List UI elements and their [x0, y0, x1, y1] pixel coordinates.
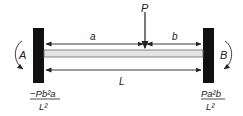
beam-diagram: P a b L A B −Pb²a L² Pa²b L² — [0, 0, 243, 116]
right-fixed-support — [203, 28, 214, 83]
left-moment-numerator: −Pb²a — [30, 88, 56, 99]
left-moment-denominator: L² — [39, 101, 48, 112]
right-moment-numerator: Pa²b — [201, 88, 221, 99]
beam — [44, 50, 203, 57]
left-fixed-support — [33, 28, 44, 83]
moment-right-label: B — [220, 49, 227, 61]
right-moment-denominator: L² — [206, 101, 215, 112]
moment-left-label: A — [18, 49, 26, 61]
dimension-b-label: b — [172, 31, 178, 42]
dimension-L-label: L — [119, 76, 125, 87]
load-label: P — [141, 2, 149, 14]
dimension-a-label: a — [90, 31, 96, 42]
